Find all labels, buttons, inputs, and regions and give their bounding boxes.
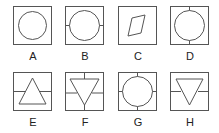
- circle-four-ticks-icon: [118, 72, 158, 112]
- option-b-figure[interactable]: [65, 6, 105, 46]
- triangle-up-line-icon: [13, 72, 53, 112]
- option-c-figure[interactable]: [118, 6, 158, 46]
- option-f-figure[interactable]: [65, 72, 105, 112]
- option-b-label: B: [65, 50, 105, 62]
- option-h-label: H: [170, 116, 210, 128]
- option-a-figure[interactable]: [13, 6, 53, 46]
- circle-in-square-icon: [13, 6, 53, 46]
- circle-horizontal-ticks-icon: [65, 6, 105, 46]
- triangle-down-cross-icon: [65, 72, 105, 112]
- option-h-figure[interactable]: [170, 72, 210, 112]
- option-d-figure[interactable]: [170, 6, 210, 46]
- option-e-figure[interactable]: [13, 72, 53, 112]
- option-f-label: F: [65, 116, 105, 128]
- option-a-label: A: [13, 50, 53, 62]
- circle-vertical-ticks-icon: [170, 6, 210, 46]
- option-e-label: E: [13, 116, 53, 128]
- option-d-label: D: [170, 50, 210, 62]
- option-g-figure[interactable]: [118, 72, 158, 112]
- option-g-label: G: [118, 116, 158, 128]
- option-c-label: C: [118, 50, 158, 62]
- parallelogram-in-square-icon: [118, 6, 158, 46]
- triangle-down-line-icon: [170, 72, 210, 112]
